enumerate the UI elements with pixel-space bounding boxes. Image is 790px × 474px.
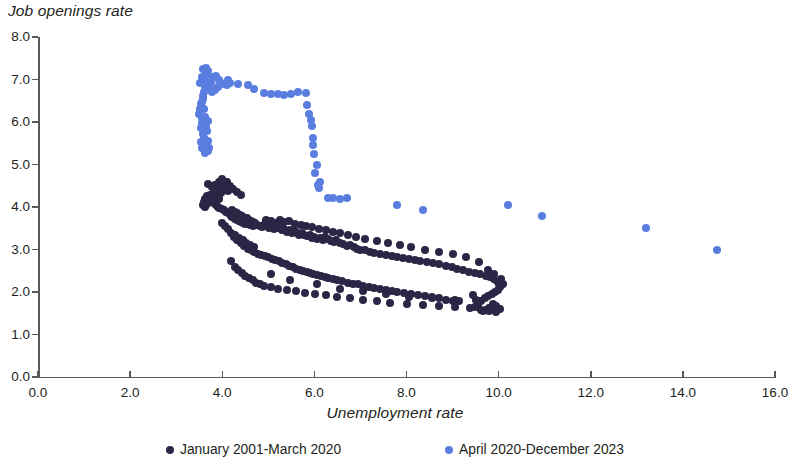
data-point-series-1	[301, 289, 309, 297]
data-point-series-1	[462, 253, 470, 261]
x-axis-tick-label: 16.0	[753, 386, 790, 400]
data-point-series-2	[713, 246, 721, 254]
data-point-series-2	[504, 201, 512, 209]
y-axis-tick-label: 3.0	[0, 243, 30, 257]
data-point-series-2	[343, 194, 351, 202]
x-axis-tick-label: 10.0	[477, 386, 521, 400]
y-axis-tick-label: 2.0	[0, 285, 30, 299]
data-point-series-1	[322, 291, 330, 299]
data-point-series-1	[283, 286, 291, 294]
y-axis-tick-label: 6.0	[0, 115, 30, 129]
data-point-series-1	[419, 301, 427, 309]
data-point-series-1	[386, 299, 394, 307]
data-point-series-2	[303, 101, 311, 109]
legend-marker-icon	[445, 446, 453, 454]
data-point-series-2	[267, 90, 275, 98]
y-axis-tick-label: 8.0	[0, 30, 30, 44]
x-axis-tick-label: 0.0	[16, 386, 60, 400]
data-point-series-2	[642, 224, 650, 232]
data-point-series-2	[199, 65, 207, 73]
data-point-series-1	[403, 300, 411, 308]
data-point-series-1	[267, 270, 275, 278]
y-axis-tick-label: 1.0	[0, 328, 30, 342]
data-point-series-1	[435, 248, 443, 256]
data-point-series-1	[477, 306, 485, 314]
data-point-series-1	[373, 297, 381, 305]
legend-marker-icon	[166, 446, 174, 454]
data-point-series-2	[308, 122, 316, 130]
y-axis-tick-label: 5.0	[0, 158, 30, 172]
data-point-series-1	[421, 246, 429, 254]
data-point-series-2	[280, 91, 288, 99]
data-point-series-2	[196, 79, 204, 87]
data-point-series-2	[329, 194, 337, 202]
data-point-series-2	[214, 83, 222, 91]
data-point-series-1	[292, 287, 300, 295]
data-point-series-2	[315, 184, 323, 192]
legend-item-2: April 2020-December 2023	[445, 443, 624, 457]
data-point-series-1	[313, 280, 321, 288]
plot-area	[38, 37, 775, 377]
data-point-series-2	[419, 206, 427, 214]
data-point-series-2	[309, 141, 317, 149]
data-point-series-2	[393, 201, 401, 209]
data-point-series-2	[313, 161, 321, 169]
data-point-series-1	[384, 239, 392, 247]
data-point-series-1	[466, 304, 474, 312]
data-point-series-1	[346, 294, 354, 302]
data-point-series-1	[451, 296, 459, 304]
legend-label: January 2001-March 2020	[180, 443, 341, 457]
x-axis-tick-label: 8.0	[385, 386, 429, 400]
beveridge-curve-chart: Job openings rate 0.01.02.03.04.05.06.07…	[0, 0, 790, 474]
y-axis-title: Job openings rate	[8, 2, 133, 20]
data-point-series-1	[451, 303, 459, 311]
y-axis-tick-label: 4.0	[0, 200, 30, 214]
x-axis-tick-label: 12.0	[569, 386, 613, 400]
data-point-series-1	[382, 290, 390, 298]
data-point-series-1	[250, 243, 258, 251]
data-point-series-1	[336, 285, 344, 293]
chart-legend: January 2001-March 2020April 2020-Decemb…	[0, 443, 790, 457]
data-point-series-1	[396, 241, 404, 249]
data-point-series-2	[302, 89, 310, 97]
x-axis-tick-label: 2.0	[108, 386, 152, 400]
x-axis-tick-label: 6.0	[292, 386, 336, 400]
data-point-series-1	[475, 258, 483, 266]
data-point-series-1	[286, 276, 294, 284]
data-point-series-1	[274, 285, 282, 293]
data-point-series-1	[336, 229, 344, 237]
data-point-series-2	[204, 117, 212, 125]
data-point-series-1	[359, 287, 367, 295]
data-point-series-1	[405, 293, 413, 301]
y-axis-tick-label: 7.0	[0, 73, 30, 87]
data-point-series-1	[344, 231, 352, 239]
data-point-series-2	[234, 80, 242, 88]
legend-label: April 2020-December 2023	[459, 443, 624, 457]
data-point-series-2	[294, 88, 302, 96]
data-point-series-1	[361, 235, 369, 243]
data-point-series-1	[373, 237, 381, 245]
data-point-series-1	[359, 296, 367, 304]
data-point-series-1	[449, 250, 457, 258]
x-axis-tick-label: 4.0	[200, 386, 244, 400]
legend-item-1: January 2001-March 2020	[166, 443, 341, 457]
data-point-series-2	[311, 169, 319, 177]
data-point-series-1	[435, 302, 443, 310]
data-point-series-1	[352, 233, 360, 241]
data-point-series-1	[492, 308, 500, 316]
data-point-series-1	[237, 191, 245, 199]
data-point-series-2	[250, 85, 258, 93]
data-point-series-1	[333, 293, 341, 301]
y-axis-tick-label: 0.0	[0, 370, 30, 384]
data-point-series-1	[428, 294, 436, 302]
data-point-series-1	[407, 243, 415, 251]
x-axis-title: Unemployment rate	[0, 404, 790, 422]
data-point-series-1	[499, 280, 507, 288]
data-point-series-1	[311, 290, 319, 298]
data-point-series-2	[310, 150, 318, 158]
data-point-series-2	[538, 212, 546, 220]
data-point-series-1	[267, 283, 275, 291]
x-axis-tick-label: 14.0	[661, 386, 705, 400]
